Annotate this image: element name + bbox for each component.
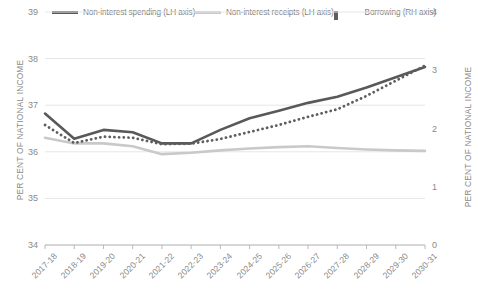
chart-container: Non-interest spending (LH axis) Non-inte… xyxy=(0,0,478,291)
tick-marks xyxy=(45,245,425,249)
plot-area xyxy=(0,0,478,291)
gridlines xyxy=(45,12,425,245)
